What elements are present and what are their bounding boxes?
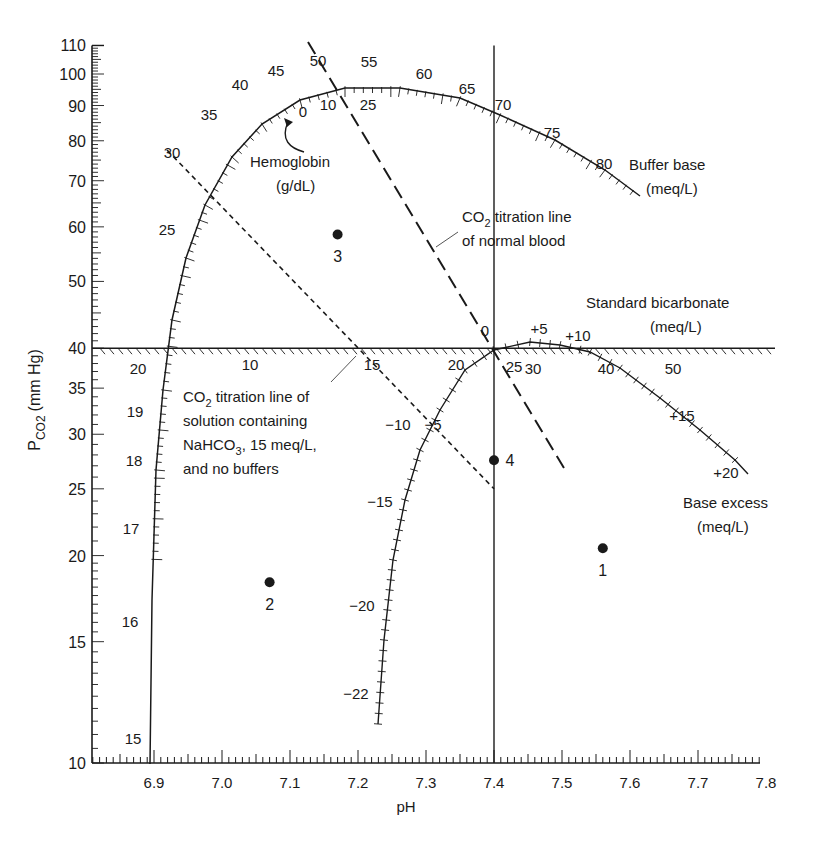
y-tick-label: 90 xyxy=(68,98,86,115)
svg-text:3: 3 xyxy=(333,248,342,265)
svg-text:(meq/L): (meq/L) xyxy=(646,180,698,197)
x-tick-label: 7.1 xyxy=(280,774,301,791)
base-excess-label: 0 xyxy=(481,322,489,339)
y-tick-label: 25 xyxy=(68,481,86,498)
buffer-base-label: 55 xyxy=(361,53,378,70)
standard-bicarbonate-label: 30 xyxy=(525,360,542,377)
data-point-1: 1 xyxy=(598,543,608,579)
base-excess-label: −5 xyxy=(424,416,441,433)
x-tick-label: 6.9 xyxy=(144,774,165,791)
svg-text:CO2 titration line of: CO2 titration line of xyxy=(183,388,310,409)
hemoglobin-label: 10 xyxy=(320,96,337,113)
left-curve-label: 19 xyxy=(127,403,144,420)
svg-text:solution containing: solution containing xyxy=(183,412,307,429)
buffer-base-label: 80 xyxy=(596,155,613,172)
base-excess-label: −20 xyxy=(349,597,374,614)
y-tick-label: 70 xyxy=(68,173,86,190)
svg-text:Base excess: Base excess xyxy=(683,494,768,511)
normal-blood-annotation: CO2 titration line of normal blood xyxy=(436,208,572,249)
y-tick-label: 35 xyxy=(68,380,86,397)
base-excess-label: −22 xyxy=(343,685,368,702)
x-tick-label: 7.4 xyxy=(484,774,505,791)
x-tick-label: 7.7 xyxy=(688,774,709,791)
buffer-base-label: 50 xyxy=(310,52,327,69)
y-tick-label: 80 xyxy=(68,133,86,150)
bicarbonate-solution-annotation: CO2 titration line of solution containin… xyxy=(183,356,356,477)
svg-text:Standard bicarbonate: Standard bicarbonate xyxy=(586,294,729,311)
standard-bicarbonate-label: 50 xyxy=(665,360,682,377)
y-tick-label: 60 xyxy=(68,219,86,236)
y-tick-label: 110 xyxy=(60,37,86,54)
standard-bicarbonate-annotation: Standard bicarbonate (meq/L) xyxy=(586,294,729,335)
buffer-base-label: 25 xyxy=(159,221,176,238)
svg-text:PCO2(mm Hg): PCO2(mm Hg) xyxy=(26,349,48,451)
svg-text:(meq/L): (meq/L) xyxy=(697,518,749,535)
svg-text:2: 2 xyxy=(265,596,274,613)
tick-labels: 6.97.07.17.27.37.47.57.67.77.81015202530… xyxy=(59,37,776,791)
base-excess-curve xyxy=(378,342,748,724)
standard-bicarbonate-label: 15 xyxy=(364,356,381,373)
base-excess-label: −10 xyxy=(385,416,410,433)
y-tick-label: 100 xyxy=(59,66,86,83)
nomogram-chart: 6.97.07.17.27.37.47.57.67.77.81015202530… xyxy=(0,0,816,845)
base-excess-label: +10 xyxy=(565,327,590,344)
x-axis-title: pH xyxy=(396,798,415,815)
x-tick-label: 7.8 xyxy=(756,774,777,791)
svg-text:(meq/L): (meq/L) xyxy=(650,318,702,335)
standard-bicarbonate-label: 20 xyxy=(448,356,465,373)
x-tick-label: 7.2 xyxy=(348,774,369,791)
hemoglobin-label: 0 xyxy=(299,103,307,120)
svg-text:1: 1 xyxy=(598,562,607,579)
svg-text:(g/dL): (g/dL) xyxy=(276,177,315,194)
hemoglobin-label: 25 xyxy=(360,96,377,113)
left-curve-label: 17 xyxy=(123,520,140,537)
hemoglobin-annotation: Hemoglobin (g/dL) xyxy=(250,118,330,194)
svg-text:Buffer base: Buffer base xyxy=(629,156,705,173)
base-excess-label: +15 xyxy=(669,407,694,424)
x-tick-label: 7.6 xyxy=(620,774,641,791)
y-tick-label: 10 xyxy=(68,755,86,772)
standard-bicarbonate-label: 40 xyxy=(598,360,615,377)
svg-text:4: 4 xyxy=(506,452,515,469)
left-curve-label: 16 xyxy=(122,613,139,630)
y-tick-label: 30 xyxy=(68,426,86,443)
base-excess-label: +20 xyxy=(713,464,738,481)
svg-text:of normal blood: of normal blood xyxy=(462,232,565,249)
curved-arrow-icon xyxy=(285,122,304,152)
y-tick-label: 40 xyxy=(68,340,86,357)
y-tick-label: 50 xyxy=(68,273,86,290)
left-curve-label: 20 xyxy=(130,360,147,377)
y-axis-title: PCO2(mm Hg) xyxy=(26,349,48,451)
buffer-base-annotation: Buffer base (meq/L) xyxy=(629,156,705,197)
data-point-2: 2 xyxy=(265,577,275,613)
buffer-base-label: 75 xyxy=(544,124,561,141)
buffer-base-label: 40 xyxy=(232,76,249,93)
buffer-base-label: 60 xyxy=(416,65,433,82)
base-excess-annotation: Base excess (meq/L) xyxy=(683,494,768,535)
standard-bicarbonate-label: 25 xyxy=(506,358,523,375)
buffer-base-label: 35 xyxy=(201,106,218,123)
standard-bicarbonate-label: 10 xyxy=(242,356,259,373)
x-tick-label: 7.3 xyxy=(416,774,437,791)
data-point-4: 4 xyxy=(489,452,515,469)
base-excess-label: +5 xyxy=(530,320,547,337)
svg-text:NaHCO3, 15 meq/L,: NaHCO3, 15 meq/L, xyxy=(183,436,317,457)
y-tick-label: 20 xyxy=(68,548,86,565)
normal-blood-titration-line xyxy=(308,42,566,471)
svg-text:and no buffers: and no buffers xyxy=(183,460,279,477)
buffer-base-label: 70 xyxy=(495,96,512,113)
buffer-base-label: 30 xyxy=(164,144,181,161)
buffer-base-label: 65 xyxy=(459,80,476,97)
data-point-3: 3 xyxy=(333,229,343,265)
left-curve-label: 15 xyxy=(125,730,142,747)
buffer-base-label: 45 xyxy=(268,62,285,79)
left-curve-label: 18 xyxy=(126,452,143,469)
x-tick-label: 7.0 xyxy=(212,774,233,791)
x-tick-label: 7.5 xyxy=(552,774,573,791)
base-excess-label: −15 xyxy=(367,493,392,510)
svg-text:Hemoglobin: Hemoglobin xyxy=(250,153,330,170)
svg-text:CO2 titration line: CO2 titration line xyxy=(462,208,572,229)
y-tick-label: 15 xyxy=(68,634,86,651)
